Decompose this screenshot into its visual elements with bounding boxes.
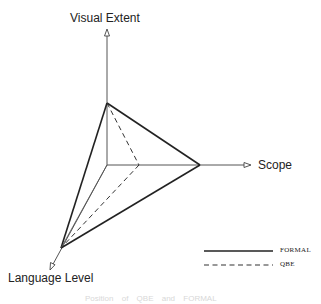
- diagram-canvas: [0, 0, 321, 304]
- vertical-arrow-icon: [105, 29, 110, 36]
- legend-label-formal: FORMAL: [280, 246, 311, 254]
- horizontal-arrow-icon: [244, 163, 251, 168]
- axis-label-language-level: Language Level: [8, 271, 93, 285]
- diagonal-arrow-icon: [50, 263, 55, 271]
- formal-shape: [61, 103, 200, 248]
- axis-label-scope: Scope: [258, 158, 292, 172]
- axis-label-visual-extent: Visual Extent: [70, 11, 140, 25]
- figure-caption: Position of QBE and FORMAL: [85, 294, 217, 303]
- legend-label-qbe: QBE: [280, 260, 295, 268]
- arrowheads: [50, 29, 251, 270]
- axes: [52, 33, 246, 266]
